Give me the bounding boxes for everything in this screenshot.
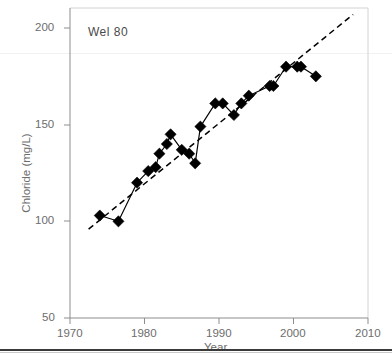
x-tick-label-2010: 2010 [355,327,381,339]
plot-annotation-label: Wel 80 [88,25,128,39]
page-bottom-rule-secondary [0,352,392,353]
chart-figure: Chloride (mg/L) 200 150 100 50 1970 1980… [0,0,392,361]
data-point-marker [280,61,291,72]
y-tick-label-200: 200 [35,21,54,33]
x-tick-label-1990: 1990 [206,327,232,339]
x-tick-label-1980: 1980 [131,327,157,339]
page-bottom-rule [0,349,392,351]
x-tick-label-1970: 1970 [57,327,83,339]
trend-line-series [89,15,354,230]
plot-frame [70,8,368,318]
y-axis-title: Chloride (mg/L) [20,133,32,212]
data-point-marker [113,216,124,227]
series-polyline [100,67,316,222]
data-point-marker [94,210,105,221]
data-point-marker [190,158,201,169]
x-tick-label-2000: 2000 [280,327,306,339]
axis-x [70,318,368,324]
chart-plot-area: Chloride (mg/L) [0,0,392,361]
y-tick-label-100: 100 [35,214,54,226]
data-point-marker [154,148,165,159]
y-tick-label-50: 50 [42,311,55,323]
data-point-marker [195,121,206,132]
data-point-marker [310,71,321,82]
y-tick-label-150: 150 [35,118,54,130]
axis-y [64,8,70,318]
data-series-line [100,67,316,222]
